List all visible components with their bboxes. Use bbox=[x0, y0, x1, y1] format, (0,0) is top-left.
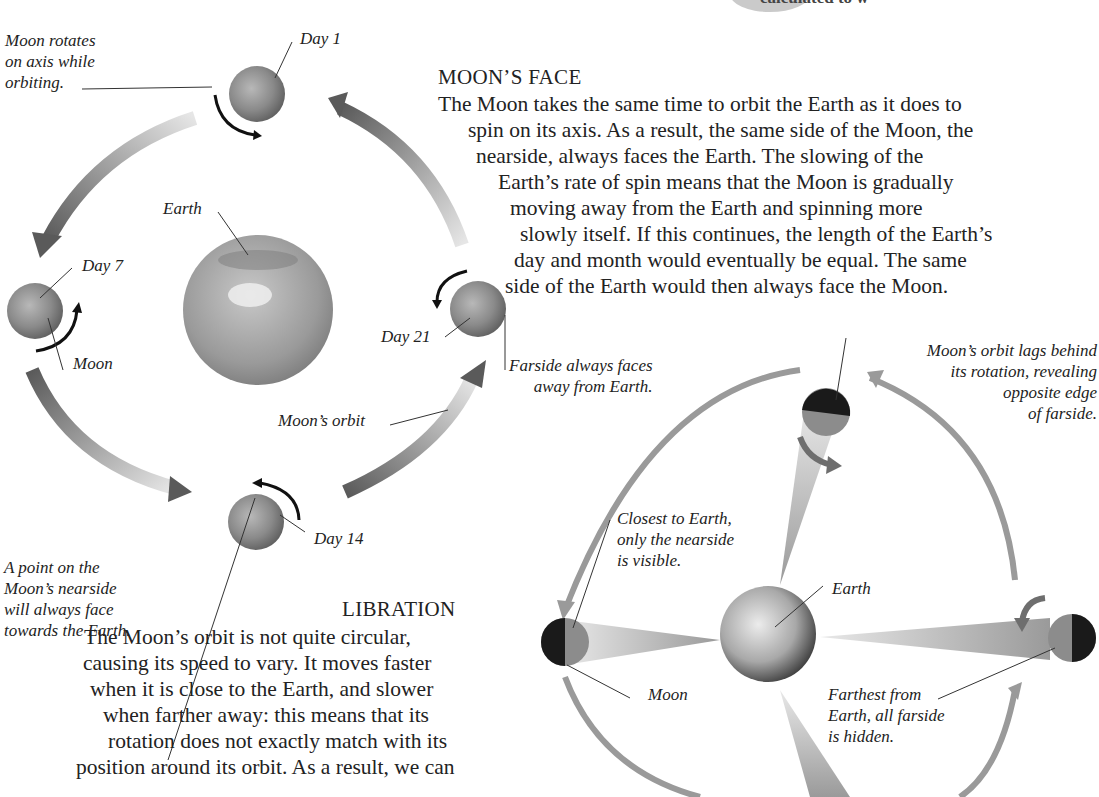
cropped-top-text: calculated to w bbox=[760, 0, 869, 8]
label-day7: Day 7 bbox=[82, 255, 123, 276]
label-earth: Earth bbox=[163, 198, 202, 219]
sight-cone bbox=[820, 618, 1050, 660]
moons-face-heading: MOON’S FACE bbox=[438, 65, 582, 90]
moon-right bbox=[1048, 614, 1096, 662]
label-farthest: Farthest from Earth, all farside is hidd… bbox=[828, 684, 945, 747]
label-day21: Day 21 bbox=[381, 326, 431, 347]
moons-face-line: spin on its axis. As a result, the same … bbox=[468, 117, 973, 143]
libration-line: causing its speed to vary. It moves fast… bbox=[83, 650, 431, 676]
moon-left bbox=[541, 618, 589, 666]
orbit-arrow-bottomleft bbox=[32, 370, 175, 488]
label-nearside-point: A point on the Moon’s nearside will alwa… bbox=[4, 557, 130, 641]
label-moon-2: Moon bbox=[648, 684, 688, 705]
label-farside: Farside always faces away from Earth. bbox=[509, 355, 653, 397]
label-moons-orbit: Moon’s orbit bbox=[278, 410, 365, 431]
moons-face-line: nearside, always faces the Earth. The sl… bbox=[476, 143, 923, 169]
earth-globe bbox=[720, 586, 816, 682]
label-closest: Closest to Earth, only the nearside is v… bbox=[617, 508, 734, 571]
label-orbit-lags: Moon’s orbit lags behind its rotation, r… bbox=[927, 340, 1097, 424]
orbit-arrow-topleft bbox=[48, 118, 195, 240]
libration-line: rotation does not exactly match with its bbox=[108, 728, 447, 754]
arrowhead-icon bbox=[168, 476, 192, 502]
moons-face-line: slowly itself. If this continues, the le… bbox=[520, 221, 992, 247]
libration-line: The Moon’s orbit is not quite circular, bbox=[84, 624, 411, 650]
moon-day21 bbox=[450, 281, 506, 337]
orbit-arrow-topright bbox=[340, 108, 462, 245]
moons-face-line: moving away from the Earth and spinning … bbox=[510, 195, 923, 221]
orbit-arrow-bottomright bbox=[345, 378, 472, 492]
label-day14: Day 14 bbox=[314, 528, 364, 549]
libration-heading: LIBRATION bbox=[342, 597, 456, 622]
moons-face-line: side of the Earth would then always face… bbox=[505, 273, 948, 299]
moons-face-line: The Moon takes the same time to orbit th… bbox=[438, 91, 962, 117]
moons-face-line: day and month would eventually be equal.… bbox=[514, 247, 967, 273]
label-moon-rotates: Moon rotates on axis while orbiting. bbox=[5, 30, 96, 93]
libration-line: position around its orbit. As a result, … bbox=[76, 754, 455, 780]
label-earth-2: Earth bbox=[832, 578, 871, 599]
moon-day14 bbox=[228, 494, 284, 550]
libration-line: when farther away: this means that its bbox=[103, 702, 429, 728]
moon-day7 bbox=[7, 283, 63, 339]
label-day1: Day 1 bbox=[300, 28, 341, 49]
moon-top bbox=[802, 388, 850, 436]
arrowhead-icon bbox=[32, 232, 62, 258]
label-moon: Moon bbox=[73, 353, 113, 374]
libration-orbit-arc bbox=[565, 370, 800, 610]
moons-face-line: Earth’s rate of spin means that the Moon… bbox=[498, 169, 954, 195]
libration-line: when it is close to the Earth, and slowe… bbox=[90, 676, 433, 702]
